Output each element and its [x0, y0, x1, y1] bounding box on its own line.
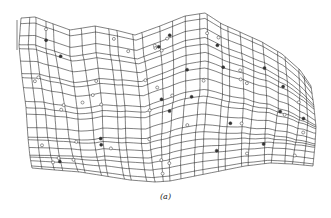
data-point: [202, 79, 205, 82]
data-point: [245, 82, 248, 85]
mesh-column-line: [19, 18, 32, 168]
data-point: [168, 110, 171, 113]
data-point: [100, 103, 103, 106]
data-point: [33, 80, 36, 83]
mesh-column-line: [181, 16, 187, 179]
data-point: [45, 28, 48, 31]
data-point: [59, 55, 62, 58]
data-point: [222, 66, 225, 69]
data-point: [229, 122, 232, 125]
data-point: [216, 44, 219, 47]
data-point: [239, 69, 242, 72]
data-point: [153, 44, 156, 47]
data-point: [160, 49, 163, 52]
figure-caption: (a): [0, 192, 331, 201]
mesh-column-line: [169, 21, 173, 181]
data-point: [37, 76, 40, 79]
data-point: [217, 36, 220, 39]
mesh-row-line: [23, 78, 315, 120]
data-point: [282, 85, 285, 88]
data-point: [41, 144, 44, 147]
mesh-column-line: [240, 32, 244, 167]
data-point: [302, 131, 305, 134]
data-point: [144, 79, 147, 82]
data-point: [81, 101, 84, 104]
mesh-row-line: [19, 44, 313, 105]
mesh-column-line: [95, 26, 108, 177]
data-point: [45, 39, 48, 42]
data-point: [215, 149, 218, 152]
data-point: [75, 140, 78, 143]
data-point: [168, 34, 171, 37]
data-point: [62, 104, 65, 107]
data-point: [279, 110, 282, 113]
data-point: [293, 154, 296, 157]
data-point: [161, 172, 164, 175]
data-point: [168, 162, 171, 165]
data-point: [109, 147, 112, 150]
wireframe-surface: [0, 0, 331, 218]
data-point: [263, 67, 266, 70]
data-point: [148, 138, 151, 141]
data-point: [246, 152, 249, 155]
mesh-row-line: [22, 61, 315, 109]
data-point: [72, 158, 75, 161]
data-point: [91, 94, 94, 97]
data-point: [297, 101, 300, 104]
mesh-row-line: [22, 68, 315, 114]
data-point: [52, 161, 55, 164]
data-point: [239, 78, 242, 81]
data-point: [112, 37, 115, 40]
data-point: [186, 68, 189, 71]
mesh-row-line: [32, 163, 313, 182]
data-point: [283, 113, 286, 116]
data-point: [160, 98, 163, 101]
mesh-row-line: [21, 13, 311, 86]
mesh-column-line: [203, 14, 209, 174]
data-point: [302, 117, 305, 120]
mesh-row-line: [29, 138, 315, 151]
data-point: [186, 124, 189, 127]
data-point: [166, 37, 169, 40]
data-point: [190, 95, 193, 98]
data-point: [206, 32, 209, 35]
mesh-column-line: [271, 51, 278, 163]
data-point: [58, 160, 61, 163]
data-point: [156, 86, 159, 89]
data-point: [127, 50, 130, 53]
data-point: [60, 108, 63, 111]
data-point: [148, 109, 151, 112]
data-point: [100, 143, 103, 146]
mesh-row-line: [28, 132, 315, 144]
data-point: [262, 143, 265, 146]
data-point: [157, 45, 160, 48]
data-point: [57, 157, 60, 160]
data-point: [240, 122, 243, 125]
data-point: [160, 159, 163, 162]
mesh-column-line: [81, 28, 102, 175]
data-point: [171, 94, 174, 97]
mesh-column-line: [28, 17, 42, 169]
data-point: [99, 137, 102, 140]
data-point: [95, 80, 98, 83]
mesh-row-line: [28, 125, 315, 140]
